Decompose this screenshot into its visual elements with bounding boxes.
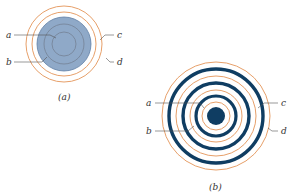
label-b: b — [146, 126, 152, 136]
leader-d — [106, 58, 114, 62]
label-c: c — [117, 30, 122, 40]
diagram-canvas: a b c d (a) a b c d (b) — [0, 0, 292, 195]
leader-b — [155, 126, 194, 131]
figure-b: a b c d (b) — [146, 62, 287, 192]
label-d: d — [281, 126, 287, 136]
dark-center-disk — [207, 107, 225, 125]
label-a: a — [6, 30, 11, 40]
label-a: a — [146, 98, 151, 108]
label-c: c — [281, 98, 286, 108]
leader-d — [268, 128, 278, 131]
caption-a: (a) — [58, 92, 71, 102]
blue-disk — [37, 17, 91, 71]
figure-a: a b c d (a) — [6, 6, 123, 102]
caption-b: (b) — [209, 182, 222, 192]
label-d: d — [117, 57, 123, 67]
label-b: b — [6, 57, 12, 67]
